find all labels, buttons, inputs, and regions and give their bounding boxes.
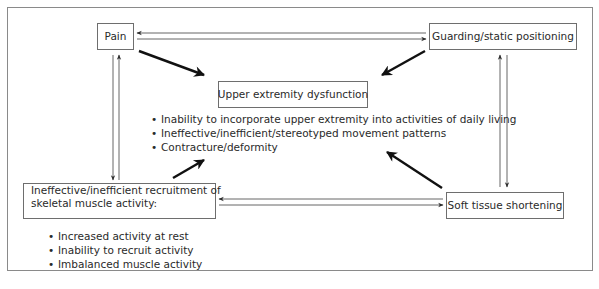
node-recruitment-label-line2: skeletal muscle activity: [31,197,157,210]
node-soft-tissue: Soft tissue shortening [446,192,564,219]
recruitment-bullet: Imbalanced muscle activity [48,257,202,271]
recruitment-bullet: Inability to recruit activity [48,243,202,257]
node-soft-tissue-label: Soft tissue shortening [448,199,563,212]
node-guarding-label: Guarding/static positioning [432,30,574,43]
node-recruitment: Ineffective/inefficient recruitment of s… [23,183,216,219]
upper-extremity-bullet: Ineffective/inefficient/stereotyped move… [151,126,516,140]
node-pain-label: Pain [105,30,127,43]
node-pain: Pain [97,23,134,50]
node-guarding: Guarding/static positioning [429,23,577,50]
bold-arrow-soft-tissue-to-upper-extremity [387,152,442,188]
upper-extremity-bullet: Contracture/deformity [151,140,516,154]
recruitment-bullet: Increased activity at rest [48,229,202,243]
bold-arrow-guarding-to-upper-extremity [382,51,425,75]
upper-extremity-bullet: Inability to incorporate upper extremity… [151,112,516,126]
bold-arrow-recruitment-to-upper-extremity [173,160,204,178]
bold-arrow-pain-to-upper-extremity [139,51,204,75]
node-upper-extremity: Upper extremity dysfunction [218,81,368,108]
recruitment-bullet-list: Increased activity at rest Inability to … [48,229,202,271]
upper-extremity-bullet-list: Inability to incorporate upper extremity… [151,112,516,154]
node-upper-extremity-label: Upper extremity dysfunction [218,88,368,101]
node-recruitment-label-line1: Ineffective/inefficient recruitment of [31,184,221,197]
